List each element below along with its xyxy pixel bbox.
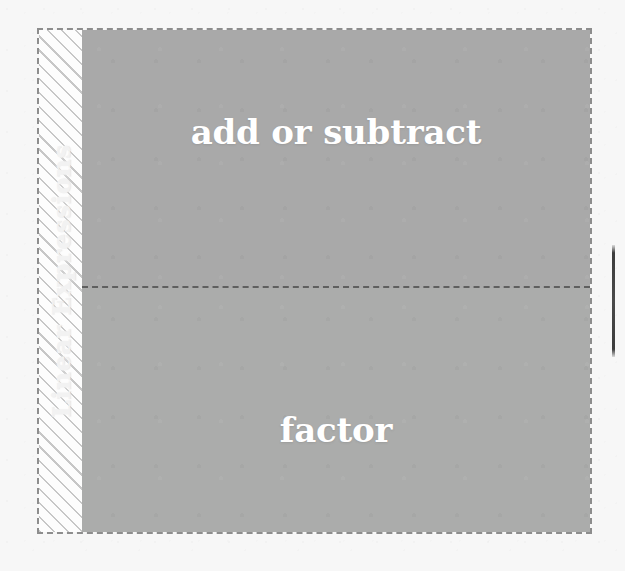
- linear-expressions-diagram: Linear Expressions add or subtract facto…: [37, 28, 592, 534]
- block-factor[interactable]: factor: [82, 288, 590, 532]
- block-add-or-subtract[interactable]: add or subtract: [82, 30, 590, 288]
- spine-label-linear-expressions: Linear Expressions: [46, 144, 75, 418]
- diagram-spine-hatched: Linear Expressions: [39, 30, 82, 532]
- block-label-add-or-subtract: add or subtract: [191, 115, 482, 149]
- page-edge-marker-tab: [612, 245, 615, 357]
- block-label-factor: factor: [280, 413, 392, 447]
- page-canvas: Linear Expressions add or subtract facto…: [0, 0, 625, 571]
- operation-blocks-column: add or subtract factor: [82, 30, 590, 532]
